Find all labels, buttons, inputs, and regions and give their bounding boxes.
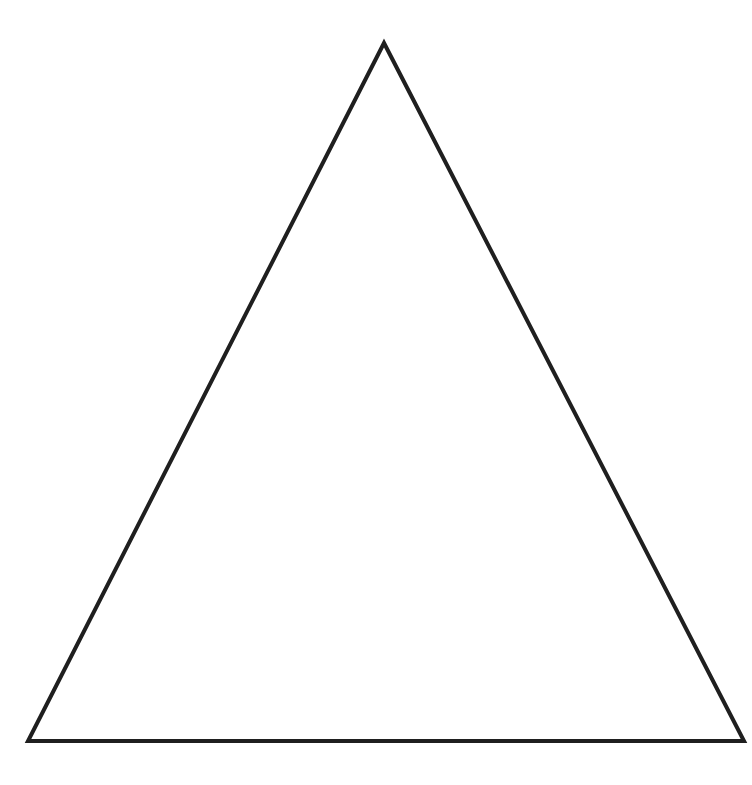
triangle-diagram [0,0,752,785]
diagram-canvas [0,0,752,785]
triangle-shape [28,43,744,741]
